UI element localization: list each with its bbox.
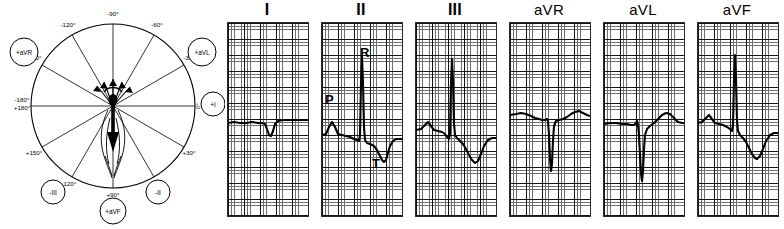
deg-plus-30: +30°	[183, 149, 196, 156]
lead-avl-trace-path	[604, 113, 684, 181]
deg-plus-90: +90°	[107, 191, 120, 198]
deg-minus-120: -120°	[61, 21, 76, 28]
hexaxial-svg: -90° -120° -150° -180° +180° +150° +120°…	[0, 0, 225, 229]
lead-avf-grid	[697, 22, 779, 217]
lead-ii-label-p: P	[325, 93, 334, 106]
lead-iii-trace-path	[416, 59, 496, 163]
lead-avf-panel: aVF	[697, 0, 777, 215]
lead-avl-panel: aVL	[603, 0, 683, 215]
marker-plus-avl: +aVL	[188, 38, 216, 66]
marker-plus-i: +I	[201, 92, 225, 116]
hexaxial-reference-diagram: -90° -120° -150° -180° +180° +150° +120°…	[0, 0, 225, 229]
deg-0: 0°	[194, 103, 201, 109]
lead-avr-grid	[509, 22, 591, 217]
lead-avf-waveform	[698, 23, 778, 216]
lead-avl-title: aVL	[603, 1, 683, 18]
marker-plus-avf-label: +aVF	[105, 208, 121, 215]
lead-iii-panel: III	[415, 0, 495, 215]
lead-avr-panel: aVR	[509, 0, 589, 215]
lead-ii-label-r: R	[360, 46, 369, 59]
marker-minus-ii: -II	[146, 180, 170, 204]
lead-i-grid	[227, 22, 309, 217]
marker-plus-avf: +aVF	[100, 198, 126, 224]
marker-minus-iii-label: -III	[49, 189, 57, 196]
lead-ii-trace-path	[322, 57, 402, 162]
marker-plus-avl-label: +aVL	[194, 49, 210, 56]
lead-avr-waveform	[510, 23, 590, 216]
marker-plus-avr-label: +aVR	[16, 49, 33, 56]
marker-plus-i-label: +I	[210, 101, 216, 108]
marker-plus-avr: +aVR	[10, 38, 38, 66]
lead-avl-grid	[603, 22, 685, 217]
lead-iii-grid	[415, 22, 497, 217]
lead-i-waveform	[228, 23, 308, 216]
lead-avr-title: aVR	[509, 1, 589, 18]
marker-minus-ii-label: -II	[155, 189, 161, 196]
deg-minus-60: -60°	[151, 21, 163, 28]
lead-ii-title: II	[321, 1, 401, 18]
deg-180: -180°	[15, 96, 30, 103]
lead-iii-waveform	[416, 23, 496, 216]
lead-avl-waveform	[604, 23, 684, 216]
lead-i-panel: I	[227, 0, 307, 215]
lead-avr-trace-path	[510, 111, 590, 171]
ecg-figure: -90° -120° -150° -180° +180° +150° +120°…	[0, 0, 784, 229]
marker-minus-iii: -III	[41, 180, 65, 204]
lead-i-title: I	[227, 1, 307, 18]
limb-lead-strips: IIIPRTIIIaVRaVLaVF	[225, 0, 784, 229]
lead-iii-title: III	[415, 1, 495, 18]
deg-plus-150: +150°	[26, 149, 43, 156]
lead-ii-label-t: T	[372, 157, 380, 170]
deg-minus-90: -90°	[107, 10, 119, 17]
lead-avf-trace-path	[698, 55, 778, 159]
hexaxial-degree-labels: -90° -120° -150° -180° +180° +150° +120°…	[14, 10, 201, 198]
lead-ii-panel: IIPRT	[321, 0, 401, 215]
lead-avf-title: aVF	[697, 1, 777, 18]
deg-plus-180: +180°	[14, 104, 31, 111]
lead-i-trace-path	[228, 120, 308, 136]
